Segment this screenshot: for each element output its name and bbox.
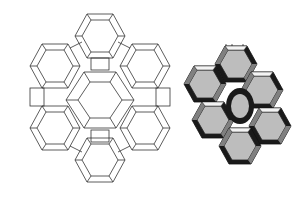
wireframe-structure — [30, 14, 170, 182]
shaded-structure — [184, 44, 291, 164]
zeolite-figure — [0, 0, 300, 199]
